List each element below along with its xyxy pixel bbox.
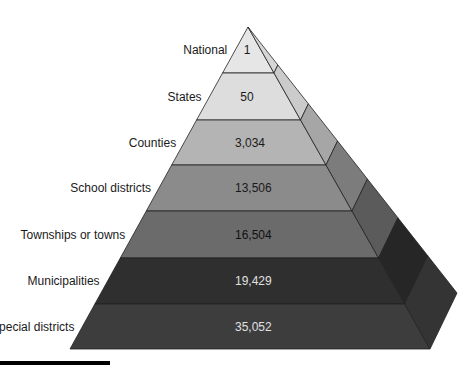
divider-bar	[0, 361, 110, 365]
level-label: School districts	[70, 181, 151, 195]
pyramid-level: National1	[183, 27, 278, 73]
level-label: Counties	[129, 136, 176, 150]
level-label: National	[183, 43, 227, 57]
level-value: 1	[244, 43, 251, 57]
pyramid-diagram: National1States50Counties3,034School dis…	[0, 0, 472, 370]
pyramid-level: States50	[168, 65, 309, 120]
level-label: Special districts	[0, 320, 74, 334]
level-value: 50	[240, 90, 254, 104]
level-label: States	[168, 90, 202, 104]
level-value: 16,504	[235, 228, 272, 242]
level-value: 19,429	[235, 274, 272, 288]
level-label: Townships or towns	[21, 228, 126, 242]
level-value: 3,034	[235, 136, 265, 150]
level-value: 13,506	[235, 181, 272, 195]
level-value: 35,052	[235, 320, 272, 334]
level-label: Municipalities	[28, 274, 100, 288]
